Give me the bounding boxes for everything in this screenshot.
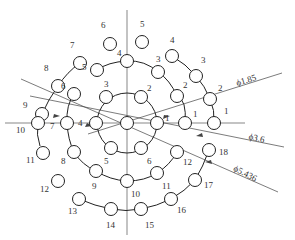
hole-label: 7 — [70, 40, 75, 50]
hole-label: 2 — [183, 80, 188, 90]
dimension-labels: ϕ1.85ϕ3.6ϕ5.436 — [232, 72, 266, 183]
hole-outer-18 — [203, 144, 216, 157]
dimension-label: ϕ1.85 — [235, 72, 258, 88]
hole-middle-8 — [68, 146, 81, 159]
hole-outer-1 — [208, 117, 221, 130]
hole-middle-11 — [151, 167, 164, 180]
hole-outer-15 — [135, 203, 148, 216]
hole-label: 4 — [170, 35, 175, 45]
hole-middle-10 — [121, 175, 134, 188]
hole-label: 12 — [183, 157, 192, 167]
hole-middle-4 — [121, 55, 134, 68]
hole-label: 8 — [44, 63, 49, 73]
hole-outer-13 — [73, 193, 86, 206]
hole-label: 17 — [204, 180, 214, 190]
hole-label: 13 — [68, 206, 78, 216]
hole-pattern-diagram: 1234561234567891011121234567891011121314… — [0, 0, 295, 240]
hole-label: 14 — [106, 220, 116, 230]
hole-outer-11 — [37, 147, 50, 160]
hole-middle-6 — [68, 88, 81, 101]
hole-label: 6 — [101, 20, 106, 30]
hole-label: 3 — [201, 55, 206, 65]
hole-inner-4 — [90, 117, 103, 130]
hole-middle-3 — [152, 66, 165, 79]
hole-label: 18 — [219, 147, 229, 157]
hole-middle-2 — [171, 90, 184, 103]
hole-outer-16 — [165, 193, 178, 206]
hole-middle-1 — [179, 117, 192, 130]
hole-outer-2 — [204, 93, 217, 106]
hole-label: 11 — [162, 181, 171, 191]
hole-label: 9 — [92, 181, 97, 191]
hole-label: 8 — [61, 156, 66, 166]
hole-label: 6 — [61, 81, 66, 91]
hole-inner-5 — [105, 142, 118, 155]
holes — [32, 36, 221, 216]
hole-label: 2 — [218, 83, 223, 93]
hole-outer-12 — [52, 175, 65, 188]
hole-label: 15 — [145, 220, 155, 230]
hole-outer-3 — [190, 70, 203, 83]
dimension-label: ϕ3.6 — [248, 132, 266, 145]
center-hole — [121, 117, 134, 130]
hole-outer-17 — [189, 174, 202, 187]
hole-label: 7 — [50, 121, 55, 131]
hole-label: 10 — [131, 189, 141, 199]
arrow-icon — [53, 114, 60, 118]
hole-middle-9 — [90, 165, 103, 178]
dimension-label: ϕ5.436 — [232, 163, 259, 183]
hole-label: 5 — [104, 156, 109, 166]
hole-label: 5 — [82, 62, 87, 72]
hole-middle-5 — [91, 64, 104, 77]
hole-inner-1 — [151, 117, 164, 130]
hole-label: 1 — [224, 106, 229, 116]
hole-inner-3 — [100, 91, 113, 104]
hole-label: 12 — [40, 184, 49, 194]
hole-label: 4 — [78, 118, 83, 128]
hole-outer-6 — [104, 38, 117, 51]
hole-label: 10 — [16, 125, 26, 135]
hole-outer-5 — [136, 36, 149, 49]
hole-outer-14 — [105, 203, 118, 216]
arrow-icon — [196, 133, 203, 137]
hole-label: 16 — [177, 205, 187, 215]
hole-label: 6 — [147, 156, 152, 166]
hole-middle-12 — [171, 146, 184, 159]
hole-label: 5 — [140, 19, 145, 29]
hole-outer-4 — [166, 50, 179, 63]
hole-inner-6 — [135, 142, 148, 155]
hole-inner-2 — [135, 91, 148, 104]
hole-outer-10 — [32, 117, 45, 130]
hole-middle-7 — [61, 117, 74, 130]
hole-label: 3 — [156, 54, 161, 64]
hole-label: 4 — [117, 48, 122, 58]
hole-label: 9 — [23, 100, 28, 110]
hole-label: 1 — [165, 113, 170, 123]
hole-label: 3 — [104, 79, 109, 89]
hole-label: 1 — [193, 109, 198, 119]
hole-label: 2 — [147, 83, 152, 93]
hole-label: 11 — [26, 155, 35, 165]
